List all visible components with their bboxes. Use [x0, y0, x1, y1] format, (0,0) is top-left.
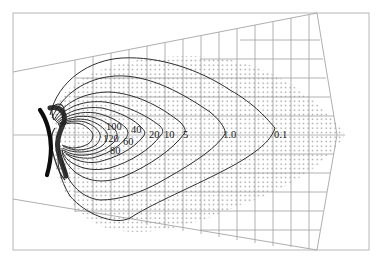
contour-label-1.0: 1.0 — [223, 130, 236, 141]
contour-label-100: 100 — [106, 122, 122, 133]
contour-label-20: 20 — [149, 130, 160, 141]
contour-label-0.1: 0.1 — [274, 130, 287, 141]
contour-label-60: 60 — [123, 137, 134, 148]
contour-label-80: 80 — [110, 146, 121, 157]
contour-label-40: 40 — [131, 125, 142, 136]
source-bar — [40, 110, 51, 175]
contour-diagram — [0, 0, 382, 271]
contour-label-120: 120 — [103, 134, 119, 145]
contour-label-10: 10 — [164, 130, 175, 141]
mesh-dots — [40, 40, 360, 250]
contour-label-5: 5 — [183, 130, 188, 141]
